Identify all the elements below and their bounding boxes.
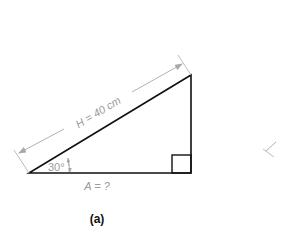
adjacent-figure-fragment — [263, 142, 276, 157]
dimension-line-left — [19, 129, 64, 153]
hypotenuse-label: H = 40 cm — [73, 94, 122, 130]
right-triangle-diagram: H = 40 cm 30° A = ? (a) — [0, 0, 282, 236]
right-angle-marker — [172, 155, 191, 173]
figure-caption: (a) — [90, 212, 105, 226]
dimension-line-right — [132, 64, 182, 92]
hypotenuse-dimension: H = 40 cm — [14, 55, 191, 173]
triangle-outline — [29, 75, 191, 173]
angle-arrow-up — [68, 158, 69, 166]
triangle — [29, 75, 191, 173]
angle-annotation: 30° — [48, 158, 70, 173]
fragment-line — [263, 149, 274, 157]
fragment-tick — [266, 142, 276, 151]
angle-label: 30° — [48, 161, 65, 173]
extension-line-left — [14, 150, 29, 173]
base-label: A = ? — [83, 180, 110, 192]
